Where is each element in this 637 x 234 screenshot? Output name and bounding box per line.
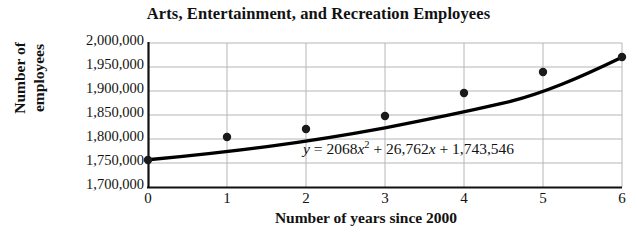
regression-equation: y = 2068x2 + 26,762x + 1,743,546 (303, 140, 514, 158)
x-tick-label: 5 (530, 189, 556, 207)
x-axis-label: Number of years since 2000 (110, 209, 622, 227)
data-point (539, 68, 547, 76)
data-point (381, 112, 389, 120)
x-tick-label: 0 (135, 189, 161, 207)
chart-figure: Arts, Entertainment, and Recreation Empl… (0, 0, 637, 234)
equation-quadratic-coefficient: 2068 (326, 140, 357, 157)
equation-plus-1: + (373, 140, 382, 157)
data-point (618, 53, 626, 61)
equation-equals: = (314, 140, 323, 157)
equation-lhs: y (303, 140, 310, 157)
data-point (223, 133, 231, 141)
x-tick-label: 1 (214, 189, 240, 207)
x-axis-tick-labels: 0 1 2 3 4 5 6 (148, 189, 622, 211)
x-tick-label: 4 (451, 189, 477, 207)
data-point (302, 125, 310, 133)
data-point (144, 156, 152, 164)
x-tick-label: 3 (372, 189, 398, 207)
equation-linear-variable: x (429, 140, 436, 157)
equation-constant: 1,743,546 (452, 140, 514, 157)
equation-quadratic-exponent: 2 (364, 139, 369, 150)
x-tick-label: 2 (293, 189, 319, 207)
x-tick-label: 6 (609, 189, 635, 207)
equation-plus-2: + (439, 140, 448, 157)
data-point (460, 89, 468, 97)
equation-linear-coefficient: 26,762 (386, 140, 429, 157)
